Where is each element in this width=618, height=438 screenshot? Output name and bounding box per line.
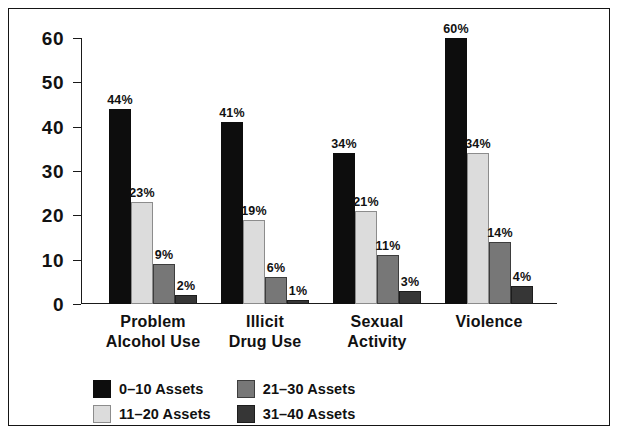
y-axis-tick-60: 60 [73, 38, 81, 39]
bar-value-label-1-0: 41% [219, 106, 245, 120]
legend-swatch-1 [237, 380, 255, 398]
y-axis-tick-50: 50 [73, 82, 81, 83]
legend-item-1[interactable]: 21–30 Assets [237, 380, 356, 398]
legend-item-3[interactable]: 31–40 Assets [237, 405, 356, 423]
bar-3-3[interactable]: 4% [511, 286, 533, 304]
bar-value-label-1-2: 6% [267, 261, 285, 275]
legend-swatch-3 [237, 405, 255, 423]
y-axis-line [81, 38, 82, 304]
y-axis-tick-10: 10 [73, 260, 81, 261]
plot-area: 0102030405060 44%23%9%2%41%19%6%1%34%21%… [81, 38, 557, 304]
y-axis-tick-label-50: 50 [42, 72, 64, 94]
bar-value-label-3-1: 34% [465, 137, 491, 151]
bar-value-label-3-0: 60% [443, 22, 469, 36]
bar-group-0: 44%23%9%2% [109, 38, 197, 304]
y-axis-tick-label-20: 20 [42, 205, 64, 227]
legend-swatch-0 [93, 380, 111, 398]
bar-value-label-3-3: 4% [513, 270, 531, 284]
legend-label-1: 21–30 Assets [263, 381, 356, 397]
figure-border-frame: 0102030405060 44%23%9%2%41%19%6%1%34%21%… [8, 8, 610, 426]
bar-3-2[interactable]: 14% [489, 242, 511, 304]
legend-label-2: 11–20 Assets [119, 406, 211, 422]
bar-value-label-2-0: 34% [331, 137, 357, 151]
bar-0-3[interactable]: 2% [175, 295, 197, 304]
bar-value-label-2-2: 11% [376, 239, 401, 253]
y-axis-tick-label-0: 0 [53, 294, 64, 316]
y-axis-tick-label-40: 40 [42, 117, 64, 139]
bar-3-0[interactable]: 60% [445, 38, 467, 304]
chart-legend: 0–10 Assets21–30 Assets11–20 Assets31–40… [93, 380, 355, 423]
y-axis-tick-20: 20 [73, 215, 81, 216]
category-label-3: Violence [419, 312, 559, 332]
bar-value-label-0-3: 2% [177, 279, 195, 293]
legend-label-3: 31–40 Assets [263, 406, 356, 422]
bar-1-0[interactable]: 41% [221, 122, 243, 304]
legend-item-0[interactable]: 0–10 Assets [93, 380, 211, 398]
legend-label-0: 0–10 Assets [119, 381, 203, 397]
bar-group-2: 34%21%11%3% [333, 38, 421, 304]
bar-value-label-1-1: 19% [241, 204, 267, 218]
bar-value-label-3-2: 14% [487, 226, 513, 240]
bar-1-2[interactable]: 6% [265, 277, 287, 304]
y-axis-tick-30: 30 [73, 171, 81, 172]
bar-chart-figure: 0102030405060 44%23%9%2%41%19%6%1%34%21%… [0, 0, 618, 438]
bar-value-label-0-1: 23% [129, 186, 155, 200]
bar-value-label-0-2: 9% [155, 248, 173, 262]
y-axis-tick-label-60: 60 [42, 28, 64, 50]
bar-3-1[interactable]: 34% [467, 153, 489, 304]
bar-2-0[interactable]: 34% [333, 153, 355, 304]
bar-2-2[interactable]: 11% [377, 255, 399, 304]
bar-group-1: 41%19%6%1% [221, 38, 309, 304]
legend-item-2[interactable]: 11–20 Assets [93, 405, 211, 423]
bar-0-2[interactable]: 9% [153, 264, 175, 304]
bar-value-label-1-3: 1% [289, 284, 307, 298]
y-axis-tick-0: 0 [73, 304, 81, 305]
bar-group-3: 60%34%14%4% [445, 38, 533, 304]
y-axis-tick-label-30: 30 [42, 161, 64, 183]
y-axis-tick-40: 40 [73, 127, 81, 128]
bar-value-label-0-0: 44% [107, 93, 133, 107]
bar-0-0[interactable]: 44% [109, 109, 131, 304]
bar-1-1[interactable]: 19% [243, 220, 265, 304]
y-axis-tick-label-10: 10 [42, 250, 64, 272]
bar-value-label-2-1: 21% [353, 195, 379, 209]
bar-value-label-2-3: 3% [401, 275, 419, 289]
bar-2-1[interactable]: 21% [355, 211, 377, 304]
bar-0-1[interactable]: 23% [131, 202, 153, 304]
legend-swatch-2 [93, 405, 111, 423]
bar-1-3[interactable]: 1% [287, 300, 309, 304]
bar-2-3[interactable]: 3% [399, 291, 421, 304]
